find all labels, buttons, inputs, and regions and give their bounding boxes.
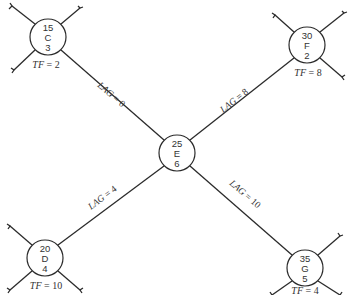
node-d: 20 D 4 TF = 10 [27, 240, 63, 291]
lag-label-e-g: LAG = 10 [227, 177, 263, 210]
node-c-tf: TF = 2 [32, 59, 59, 70]
node-f: 30 F 2 TF = 8 [289, 27, 325, 78]
node-d-tf: TF = 10 [30, 280, 62, 291]
edge-e-g [190, 166, 292, 255]
node-g: 35 G 5 TF = 4 [287, 250, 323, 295]
edge-d-e [58, 166, 164, 245]
node-g-duration: 5 [302, 273, 307, 284]
node-e-duration: 6 [174, 158, 179, 169]
node-c-duration: 3 [45, 42, 50, 53]
node-f-tf: TF = 8 [294, 67, 321, 78]
node-d-duration: 4 [42, 263, 47, 274]
node-c: 15 C 3 TF = 2 [30, 19, 66, 70]
lag-label-e-f: LAG = 8 [217, 86, 250, 115]
node-f-duration: 2 [304, 50, 309, 61]
network-diagram: LAG = 0 LAG = 8 LAG = 4 LAG = 10 15 C 3 … [0, 0, 351, 295]
lag-label-c-e: LAG = 0 [95, 79, 127, 109]
node-e: 25 E 6 [159, 135, 195, 171]
lag-label-d-e: LAG = 4 [85, 184, 118, 212]
node-g-tf: TF = 4 [291, 285, 318, 295]
